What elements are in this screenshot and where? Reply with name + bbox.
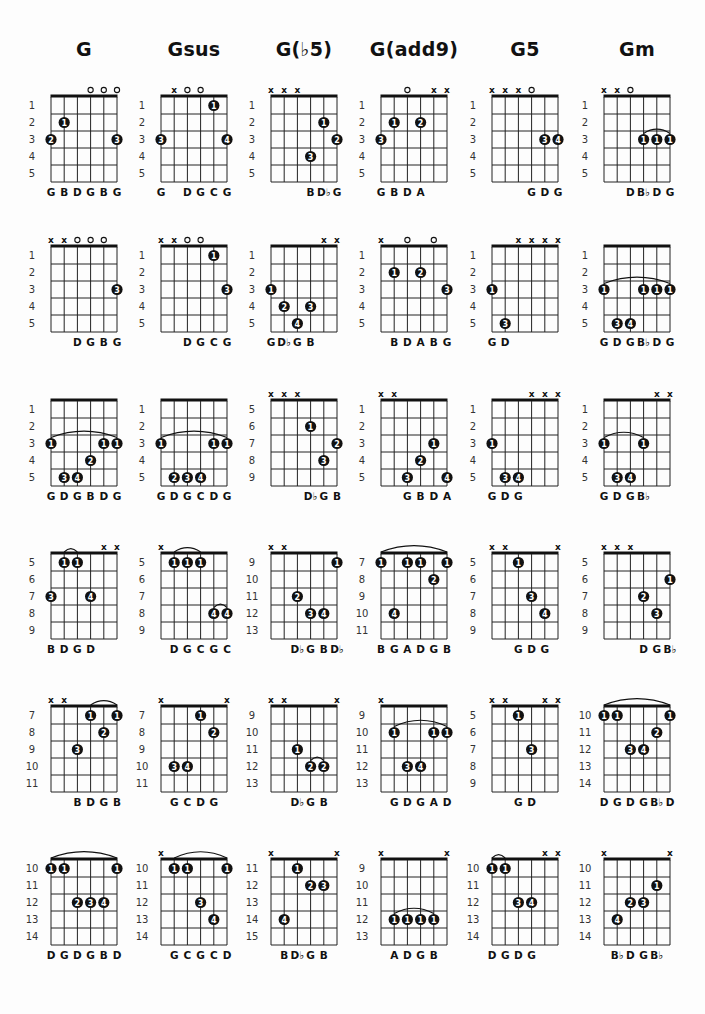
chord-diagram: xx10111213141134DGDG [462,838,572,958]
fret-number: 5 [470,710,476,721]
fret-number: 7 [582,591,588,602]
fret-number: 7 [29,591,35,602]
note-label: B [87,490,95,502]
svg-text:1: 1 [516,712,522,721]
finger-dot: 3 [169,761,180,772]
svg-text:2: 2 [321,763,327,772]
svg-text:1: 1 [114,440,120,449]
open-string-icon [185,237,190,242]
fret-number: 10 [136,761,149,772]
note-label: G [183,643,192,655]
fret-number: 8 [582,608,588,619]
finger-dot: 3 [72,744,83,755]
muted-string-icon: x [444,848,450,858]
note-label: G [113,336,122,348]
note-label: B♭ [611,949,624,961]
svg-text:3: 3 [48,593,54,602]
fret-number: 9 [249,710,255,721]
svg-text:1: 1 [489,440,495,449]
svg-text:3: 3 [641,899,647,908]
fret-number: 2 [29,117,35,128]
svg-text:2: 2 [75,899,81,908]
note-label: G [488,336,497,348]
finger-dot: 2 [85,455,96,466]
fret-number: 2 [249,267,255,278]
svg-text:1: 1 [48,865,54,874]
fret-number: 8 [139,727,145,738]
finger-dot: 4 [98,897,109,908]
muted-string-icon: x [224,695,230,705]
fret-number: 8 [470,608,476,619]
svg-text:1: 1 [391,269,397,278]
note-label: G [514,643,523,655]
fretboard-icon: xxxx1234513GD [462,225,582,350]
svg-text:1: 1 [654,882,660,891]
finger-dot: 1 [318,117,329,128]
finger-dot: 1 [428,914,439,925]
svg-text:1: 1 [405,916,411,925]
fret-number: 10 [579,710,592,721]
svg-text:1: 1 [75,559,81,568]
fret-number: 4 [359,301,365,312]
open-string-icon [101,87,106,92]
open-string-icon [75,237,80,242]
muted-string-icon: x [542,389,548,399]
fret-number: 9 [139,625,145,636]
note-label: D [527,643,536,655]
barre-arc-icon [381,546,447,552]
note-label: G [73,490,82,502]
fret-number: 5 [359,168,365,179]
finger-dot: 2 [415,117,426,128]
muted-string-icon: x [48,695,54,705]
finger-dot: 1 [428,438,439,449]
svg-text:1: 1 [601,712,607,721]
fret-number: 1 [359,404,365,415]
svg-text:4: 4 [211,916,217,925]
muted-string-icon: x [61,235,67,245]
note-label: G [639,796,648,808]
fret-number: 12 [26,897,39,908]
svg-text:3: 3 [502,474,508,483]
svg-text:1: 1 [654,136,660,145]
note-label: B♭ [664,643,677,655]
svg-text:1: 1 [61,559,67,568]
fretboard-icon: xx12345123GBDA [351,75,471,200]
note-label: G [47,490,56,502]
muted-string-icon: x [334,695,340,705]
finger-dot: 3 [305,608,316,619]
fret-number: 3 [470,284,476,295]
finger-dot: 3 [305,301,316,312]
svg-text:2: 2 [431,576,437,585]
fret-number: 9 [29,625,35,636]
finger-dot: 3 [526,591,537,602]
note-label: G [113,186,122,198]
note-label: G [73,643,82,655]
finger-dot: 1 [59,863,70,874]
finger-dot: 1 [486,863,497,874]
note-label: B [100,949,108,961]
chord-diagram: x91011121311134GDGAD [351,685,461,805]
fret-number: 14 [579,931,592,942]
svg-text:1: 1 [418,559,424,568]
svg-text:1: 1 [88,712,94,721]
note-label: G [60,949,69,961]
note-label: D [60,643,69,655]
fret-number: 5 [29,318,35,329]
fretboard-icon: xxx56789123DGB♭ [574,532,694,657]
note-label: A [417,186,426,198]
muted-string-icon: x [281,389,287,399]
fret-number: 4 [470,455,476,466]
chord-diagram: xx78910111234GCDG [131,685,241,805]
fret-number: 3 [29,134,35,145]
fret-number: 13 [467,914,480,925]
muted-string-icon: x [334,235,340,245]
fret-number: 5 [470,472,476,483]
chord-diagram: 1011121314111234DGDGBD [21,838,131,958]
fret-number: 12 [467,897,480,908]
fret-number: 5 [470,318,476,329]
svg-text:1: 1 [185,559,191,568]
open-string-icon [431,237,436,242]
note-label: D♭ [291,643,305,655]
note-label: G [183,490,192,502]
finger-dot: 2 [305,761,316,772]
